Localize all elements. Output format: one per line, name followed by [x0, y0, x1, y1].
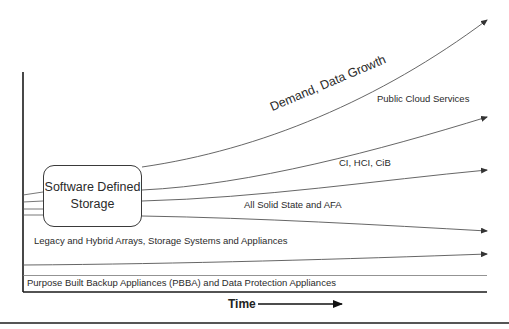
bottom-divider [0, 322, 509, 324]
sds-label-line1: Software Defined [45, 179, 141, 196]
x-axis-label: Time [228, 297, 256, 311]
stub-line [23, 192, 43, 195]
sds-label-line2: Storage [71, 196, 115, 213]
legacy-curve [23, 254, 487, 265]
stub-line [23, 201, 43, 202]
ci-hci-label: CI, HCI, CiB [339, 157, 391, 168]
public-cloud-curve [142, 117, 487, 190]
software-defined-storage-box: Software Defined Storage [43, 165, 142, 227]
all-solid-state-label: All Solid State and AFA [244, 199, 342, 210]
public-cloud-label: Public Cloud Services [377, 93, 469, 104]
pbba-label: Purpose Built Backup Appliances (PBBA) a… [27, 277, 336, 288]
legacy-label: Legacy and Hybrid Arrays, Storage System… [34, 235, 287, 246]
all-solid-state-curve [142, 216, 487, 231]
